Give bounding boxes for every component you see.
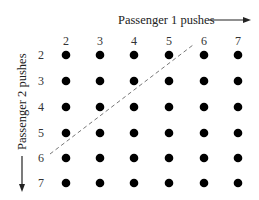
grid-dot (62, 77, 71, 86)
column-label: 6 (201, 34, 207, 48)
grid-dot (234, 51, 243, 60)
grid-dot (96, 129, 105, 138)
grid-dot (234, 103, 243, 112)
row-label: 5 (38, 126, 44, 140)
grid-dot (234, 129, 243, 138)
dashed-diagonal-line (50, 45, 193, 154)
grid-dot (234, 179, 243, 188)
grid-dot (96, 179, 105, 188)
grid-dot (165, 154, 174, 163)
grid-dot (200, 51, 209, 60)
x-axis-label: Passenger 1 pushes (118, 13, 215, 27)
grid-dot (200, 129, 209, 138)
grid-dot (130, 51, 139, 60)
row-label: 3 (38, 74, 44, 88)
grid-dot (234, 77, 243, 86)
grid-dot (130, 77, 139, 86)
grid-dot (165, 129, 174, 138)
grid-dot (200, 77, 209, 86)
row-label: 2 (38, 48, 44, 62)
grid-dot (165, 51, 174, 60)
column-label: 4 (131, 34, 137, 48)
grid-dot (165, 77, 174, 86)
row-label: 7 (38, 176, 44, 190)
grid-dot (130, 129, 139, 138)
grid-dot (62, 51, 71, 60)
grid-dot (62, 103, 71, 112)
grid-dot (62, 154, 71, 163)
grid-dot (200, 154, 209, 163)
grid-dot (165, 103, 174, 112)
dot-grid (62, 51, 243, 188)
column-labels: 234567 (63, 34, 241, 48)
y-axis-arrow-icon (19, 156, 25, 192)
grid-dot (200, 103, 209, 112)
grid-dot (165, 179, 174, 188)
grid-dot (62, 179, 71, 188)
grid-dot (96, 77, 105, 86)
grid-dot (234, 154, 243, 163)
x-axis-arrow-icon (209, 17, 251, 23)
row-label: 4 (38, 100, 44, 114)
column-label: 5 (166, 34, 172, 48)
column-label: 7 (235, 34, 241, 48)
grid-dot (200, 179, 209, 188)
row-label: 6 (38, 151, 44, 165)
grid-dot (130, 154, 139, 163)
grid-dot (130, 179, 139, 188)
grid-dot (96, 51, 105, 60)
row-labels: 234567 (38, 48, 44, 190)
y-axis-label: Passenger 2 pushes (15, 53, 29, 150)
column-label: 2 (63, 34, 69, 48)
grid-dot (96, 154, 105, 163)
column-label: 3 (97, 34, 103, 48)
grid-dot (62, 129, 71, 138)
grid-dot (96, 103, 105, 112)
grid-dot (130, 103, 139, 112)
lattice-diagram: Passenger 1 pushes Passenger 2 pushes 23… (0, 0, 259, 200)
